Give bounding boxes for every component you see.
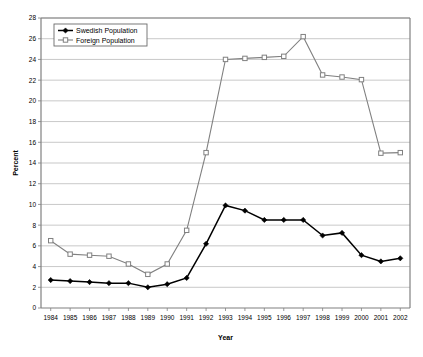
data-point-marker-square	[223, 57, 227, 61]
data-point-marker-square	[146, 272, 150, 276]
data-point-marker-square	[184, 228, 188, 232]
legend-label-swedish: Swedish Population	[76, 27, 138, 35]
data-point-marker-square	[398, 150, 402, 154]
y-axis-tick-label: 10	[29, 201, 37, 208]
x-axis-title: Year	[218, 334, 233, 341]
y-axis-tick-label: 16	[29, 139, 37, 146]
x-axis-tick-label: 1987	[102, 314, 117, 321]
data-point-marker-square	[87, 253, 91, 257]
y-axis-tick-label: 14	[29, 159, 37, 166]
x-axis-tick-label: 2002	[393, 314, 408, 321]
y-axis-tick-label: 18	[29, 118, 37, 125]
data-point-marker-square	[49, 238, 53, 242]
x-axis-tick-label: 1986	[82, 314, 97, 321]
chart-container: 0246810121416182022242628198419851986198…	[0, 0, 423, 357]
y-axis-tick-label: 8	[32, 222, 36, 229]
x-axis-tick-label: 1999	[335, 314, 350, 321]
x-axis-tick-label: 2001	[374, 314, 389, 321]
y-axis-tick-label: 0	[32, 304, 36, 311]
data-point-marker-square	[282, 54, 286, 58]
data-point-marker-square	[243, 56, 247, 60]
x-axis-tick-label: 1993	[218, 314, 233, 321]
x-axis-tick-label: 1991	[179, 314, 194, 321]
y-axis-tick-label: 22	[29, 77, 37, 84]
x-axis-tick-label: 1996	[277, 314, 292, 321]
data-point-marker-square	[320, 73, 324, 77]
x-axis-tick-label: 1984	[43, 314, 58, 321]
y-axis-title: Percent	[12, 149, 19, 175]
y-axis-tick-label: 2	[32, 284, 36, 291]
x-axis-tick-label: 1990	[160, 314, 175, 321]
data-point-marker-square	[204, 150, 208, 154]
x-axis-tick-label: 1992	[199, 314, 214, 321]
x-axis-tick-label: 1998	[315, 314, 330, 321]
x-axis-tick-label: 1994	[238, 314, 253, 321]
data-point-marker-square	[379, 151, 383, 155]
data-point-marker-square	[126, 262, 130, 266]
legend-marker-square	[63, 38, 67, 42]
x-axis-tick-label: 1995	[257, 314, 272, 321]
x-axis-tick-label: 1997	[296, 314, 311, 321]
x-axis-tick-label: 1989	[141, 314, 156, 321]
x-axis-tick-label: 1988	[121, 314, 136, 321]
legend-label-foreign: Foreign Population	[76, 37, 135, 45]
x-axis-tick-label: 1985	[63, 314, 78, 321]
y-axis-tick-label: 4	[32, 263, 36, 270]
data-point-marker-square	[359, 77, 363, 81]
y-axis-tick-label: 24	[29, 56, 37, 63]
y-axis-tick-label: 28	[29, 14, 37, 21]
y-axis-tick-label: 6	[32, 242, 36, 249]
y-axis-tick-label: 12	[29, 180, 37, 187]
data-point-marker-square	[68, 252, 72, 256]
data-point-marker-square	[262, 55, 266, 59]
data-point-marker-square	[165, 262, 169, 266]
y-axis-tick-label: 20	[29, 97, 37, 104]
legend: Swedish PopulationForeign Population	[54, 24, 147, 46]
data-point-marker-square	[340, 75, 344, 79]
data-point-marker-square	[301, 34, 305, 38]
data-point-marker-square	[107, 254, 111, 258]
x-axis-tick-label: 2000	[354, 314, 369, 321]
line-chart: 0246810121416182022242628198419851986198…	[0, 0, 423, 357]
y-axis-tick-label: 26	[29, 35, 37, 42]
